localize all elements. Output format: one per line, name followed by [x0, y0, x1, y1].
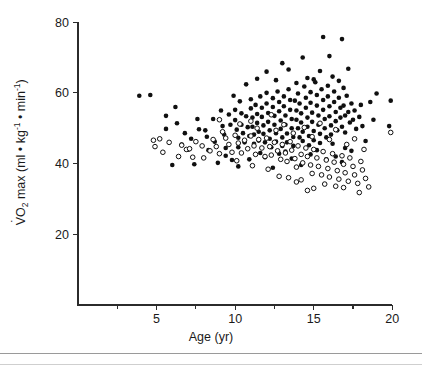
data-point: [337, 79, 342, 84]
x-tick-label-15: 15: [307, 312, 321, 326]
data-point: [360, 168, 365, 173]
data-point: [288, 139, 293, 144]
data-point: [288, 98, 293, 103]
data-point: [255, 76, 260, 81]
data-point: [194, 139, 199, 144]
data-point: [280, 142, 285, 147]
data-point: [362, 147, 367, 152]
data-point: [244, 82, 249, 87]
data-point: [255, 112, 260, 117]
data-point: [311, 129, 316, 134]
data-point: [233, 108, 238, 113]
data-point: [349, 101, 354, 106]
data-point: [253, 103, 258, 108]
data-point: [333, 127, 338, 132]
data-point: [250, 125, 255, 130]
data-point: [255, 121, 260, 126]
data-point: [366, 185, 371, 190]
data-point: [311, 186, 316, 191]
data-point: [285, 131, 290, 136]
data-point: [349, 149, 354, 154]
data-point: [330, 151, 335, 156]
data-point: [256, 137, 261, 142]
data-point: [368, 100, 373, 105]
ylabel-max-text: max (ml • kg: [14, 130, 28, 202]
data-point: [316, 164, 321, 169]
data-point: [360, 124, 365, 129]
data-point: [289, 117, 294, 122]
data-point: [319, 173, 324, 178]
data-point: [252, 144, 257, 149]
data-point: [277, 100, 282, 105]
y-tick-label-40: 40: [55, 157, 69, 171]
data-point: [272, 140, 277, 145]
data-point: [291, 131, 296, 136]
data-point: [346, 110, 351, 115]
kg-exponent: -1: [12, 123, 22, 131]
data-point: [321, 108, 326, 113]
data-point: [260, 105, 265, 110]
data-point: [346, 67, 351, 72]
data-point: [308, 163, 313, 168]
data-point: [280, 61, 285, 66]
data-point: [274, 128, 279, 133]
data-point: [282, 104, 287, 109]
data-point: [255, 126, 260, 131]
data-point: [216, 161, 221, 166]
data-point: [234, 158, 239, 163]
data-point: [315, 93, 320, 98]
data-point: [173, 105, 178, 110]
data-point: [318, 132, 323, 137]
data-point: [197, 127, 202, 132]
data-point: [274, 78, 279, 83]
data-point: [357, 115, 362, 120]
data-point: [363, 176, 368, 181]
data-point: [293, 98, 298, 103]
ylabel-close-paren: ): [14, 79, 28, 83]
data-point: [343, 130, 348, 135]
data-point: [211, 137, 216, 142]
data-point: [310, 171, 315, 176]
data-point: [282, 94, 287, 99]
data-point: [354, 127, 359, 132]
data-point: [175, 121, 180, 126]
data-point: [310, 120, 315, 125]
data-point: [327, 137, 332, 142]
data-point: [296, 91, 301, 96]
data-point: [227, 112, 232, 117]
data-point: [233, 133, 238, 138]
data-point: [164, 114, 169, 119]
data-point: [253, 152, 258, 157]
data-point: [316, 113, 321, 118]
data-point: [299, 178, 304, 183]
data-point: [249, 97, 254, 102]
data-point: [333, 110, 338, 115]
data-point: [176, 154, 181, 159]
data-point: [300, 139, 305, 144]
data-point: [234, 127, 239, 132]
data-point: [238, 122, 243, 127]
data-point: [151, 138, 156, 143]
data-point: [245, 146, 250, 151]
v-letter: V: [14, 217, 28, 225]
data-point: [195, 117, 200, 122]
data-point: [153, 144, 158, 149]
data-point: [299, 152, 304, 157]
data-point: [322, 182, 327, 187]
data-point: [289, 148, 294, 153]
data-point: [293, 156, 298, 161]
data-point: [352, 173, 357, 178]
data-point: [344, 93, 349, 98]
data-point: [275, 149, 280, 154]
data-point: [170, 163, 175, 168]
data-point: [190, 155, 195, 160]
data-point: [269, 153, 274, 158]
data-point: [261, 132, 266, 137]
data-point: [264, 136, 269, 141]
data-point: [297, 135, 302, 140]
ylabel-min-text: • min: [14, 91, 28, 122]
data-point: [242, 138, 247, 143]
data-point: [267, 128, 272, 133]
data-point: [346, 179, 351, 184]
data-point: [300, 55, 305, 60]
